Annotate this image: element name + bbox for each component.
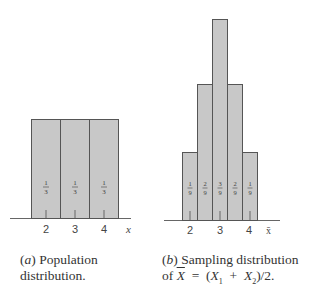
caption-b-expression: (X1 + X2)/2. — [206, 268, 275, 283]
bar-b-label-num: 2 — [203, 180, 206, 187]
tick-label-b: 4 — [246, 224, 252, 236]
bar-b-label-den: 9 — [218, 189, 221, 196]
caption-a-label: (a) — [20, 252, 36, 267]
bar-a-label-num: 1 — [102, 179, 106, 187]
bar-b-label-num: 3 — [218, 180, 221, 187]
bar-b-label-den: 9 — [203, 189, 206, 196]
caption-b-label: (b) — [162, 252, 178, 267]
caption-a-line2: distribution. — [20, 268, 86, 283]
axis-label-a: x — [125, 223, 131, 235]
bar-b-label-num: 1 — [188, 180, 191, 187]
bar-b-label-den: 9 — [248, 189, 251, 196]
bar-a-label-den: 3 — [102, 188, 106, 196]
caption-b-line1: Sampling distribution — [181, 252, 298, 267]
axis-label-b: x̄ — [266, 225, 271, 236]
caption-b-prefix: of — [162, 268, 173, 283]
panel-a-population-chart: 1 3 1 3 1 3 2 3 4 x — [10, 120, 131, 236]
caption-b-equals: = — [192, 268, 200, 283]
caption-a-line1: Population — [39, 252, 98, 267]
tick-label-b: 3 — [217, 224, 223, 236]
bar-a-label-den: 3 — [44, 188, 48, 196]
bar-a-label-num: 1 — [73, 179, 77, 187]
bar-b-3-5 — [228, 85, 243, 221]
bar-b-label-num: 2 — [233, 180, 236, 187]
bar-b-label-num: 1 — [248, 180, 251, 187]
bar-b-label-den: 9 — [233, 189, 236, 196]
bar-a-label-den: 3 — [73, 188, 77, 196]
tick-label-a: 4 — [101, 223, 107, 235]
bar-b-label-den: 9 — [188, 189, 191, 196]
caption-b: (b) Sampling distribution of X = (X1 + X… — [162, 252, 316, 290]
figure-canvas: 1 3 1 3 1 3 2 3 4 x 1 — [0, 0, 316, 293]
bar-a-3 — [61, 120, 90, 219]
bar-a-2 — [32, 120, 61, 219]
tick-label-b: 2 — [187, 224, 193, 236]
panel-b-sampling-chart: 1 9 2 9 3 9 2 9 1 9 2 3 4 x̄ — [164, 20, 280, 237]
bar-a-4 — [90, 120, 119, 219]
bar-a-label-num: 1 — [44, 179, 48, 187]
tick-label-a: 2 — [43, 223, 49, 235]
bar-b-2-5 — [198, 85, 213, 221]
caption-b-xbar: X — [177, 268, 185, 283]
caption-a: (a) Population distribution. — [20, 252, 160, 284]
tick-label-a: 3 — [72, 223, 78, 235]
